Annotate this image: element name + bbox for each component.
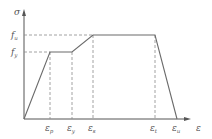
y-axis-arrow-icon bbox=[22, 9, 26, 16]
ep-label: εp bbox=[45, 123, 54, 135]
y-axis-label: σ bbox=[14, 7, 21, 17]
stress-strain-curve bbox=[24, 35, 177, 119]
x-axis-arrow-icon bbox=[184, 117, 191, 121]
es-label: εs bbox=[88, 123, 96, 134]
x-axis-label: ε bbox=[196, 123, 201, 133]
stress-strain-diagram: σ ε fu fy εp εy εs εt εu bbox=[0, 0, 212, 139]
eu-label: εu bbox=[172, 123, 181, 134]
fy-label: fy bbox=[10, 47, 18, 59]
et-label: εt bbox=[150, 123, 158, 134]
ey-label: εy bbox=[67, 123, 76, 135]
fu-label: fu bbox=[10, 30, 18, 41]
